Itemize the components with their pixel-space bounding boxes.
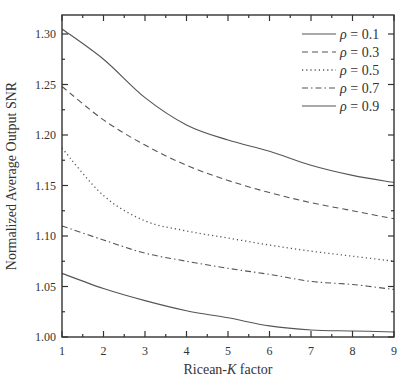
y-axis-label: Normalized Average Output SNR bbox=[4, 81, 19, 270]
line-chart: 123456789 1.001.051.101.151.201.251.30 ρ… bbox=[0, 0, 408, 387]
legend-label-rho-0.1: ρ = 0.1 bbox=[339, 27, 379, 42]
legend-label-rho-0.9: ρ = 0.9 bbox=[339, 99, 379, 114]
x-tick-label: 4 bbox=[184, 344, 190, 358]
series-line-rho-0.7 bbox=[62, 226, 394, 290]
y-tick-label: 1.05 bbox=[35, 280, 56, 294]
legend-label-rho-0.5: ρ = 0.5 bbox=[339, 63, 379, 78]
x-tick-label: 2 bbox=[101, 344, 107, 358]
y-tick-label: 1.30 bbox=[35, 27, 56, 41]
x-tick-label: 5 bbox=[225, 344, 231, 358]
legend-label-rho-0.7: ρ = 0.7 bbox=[339, 81, 379, 96]
x-axis-label: Ricean-K factor bbox=[183, 362, 272, 377]
y-tick-label: 1.00 bbox=[35, 330, 56, 344]
y-tick-label: 1.20 bbox=[35, 128, 56, 142]
x-tick-label: 3 bbox=[142, 344, 148, 358]
y-tick-label: 1.10 bbox=[35, 229, 56, 243]
y-tick-label: 1.25 bbox=[35, 78, 56, 92]
legend-label-rho-0.3: ρ = 0.3 bbox=[339, 45, 379, 60]
series-line-rho-0.5 bbox=[62, 148, 394, 261]
x-tick-label: 7 bbox=[308, 344, 314, 358]
x-tick-label: 8 bbox=[350, 344, 356, 358]
y-tick-label: 1.15 bbox=[35, 179, 56, 193]
series-line-rho-0.9 bbox=[62, 273, 394, 332]
x-tick-label: 6 bbox=[267, 344, 273, 358]
x-tick-label: 9 bbox=[391, 344, 397, 358]
legend: ρ = 0.1ρ = 0.3ρ = 0.5ρ = 0.7ρ = 0.9 bbox=[302, 27, 379, 114]
x-tick-label: 1 bbox=[59, 344, 65, 358]
